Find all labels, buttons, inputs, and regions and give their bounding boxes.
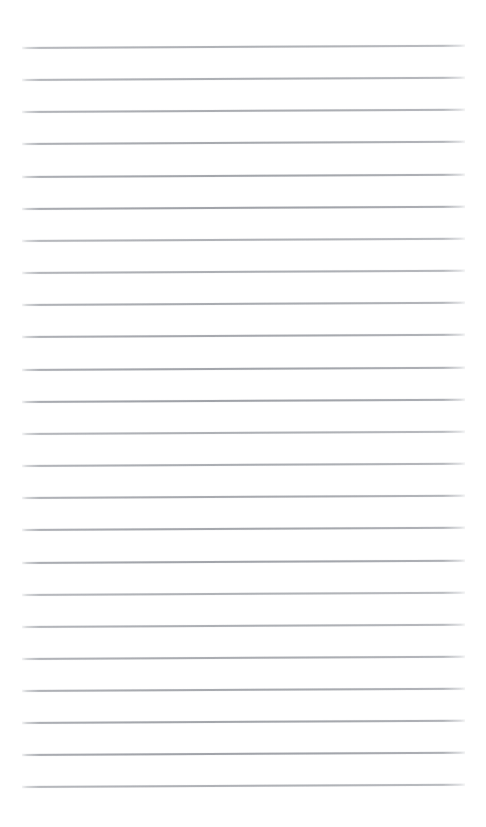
ruled-line <box>22 45 465 49</box>
ruled-line <box>22 592 465 596</box>
ruled-line <box>22 334 465 338</box>
ruled-line <box>22 174 465 178</box>
ruled-line <box>22 141 465 145</box>
ruled-line <box>22 399 465 403</box>
ruled-line <box>22 302 465 306</box>
ruled-line <box>22 495 465 499</box>
ruled-line <box>22 656 465 660</box>
ruled-line <box>22 238 465 242</box>
ruled-line <box>22 463 465 467</box>
ruled-line <box>22 624 465 628</box>
ruled-line <box>22 270 465 274</box>
ruled-line <box>22 77 465 81</box>
ruled-line <box>22 688 465 692</box>
ruled-line <box>22 527 465 531</box>
ruled-lines-layer <box>0 0 486 827</box>
ruled-line <box>22 560 465 564</box>
ruled-line <box>22 784 465 788</box>
ruled-line <box>22 109 465 113</box>
ruled-line <box>22 431 465 435</box>
notepad-page <box>0 0 486 827</box>
ruled-line <box>22 206 465 210</box>
ruled-line <box>22 720 465 724</box>
ruled-line <box>22 367 465 371</box>
ruled-line <box>22 752 465 756</box>
